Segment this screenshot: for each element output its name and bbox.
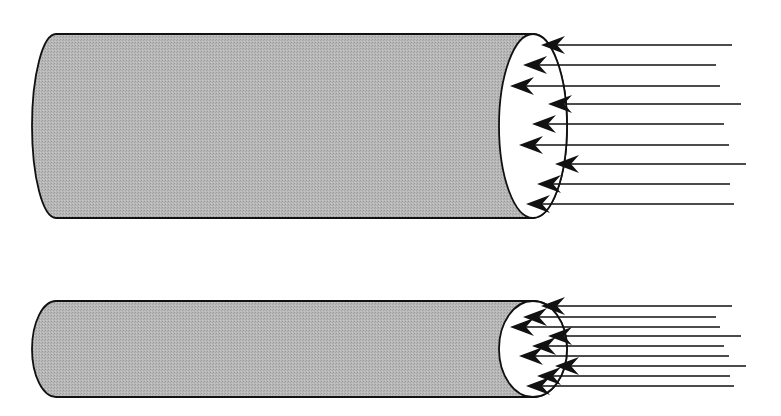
flux-arrow: [537, 175, 730, 193]
flux-arrow: [548, 327, 741, 345]
flux-arrow: [548, 95, 741, 113]
flux-arrow: [526, 195, 734, 213]
flux-arrow: [541, 297, 732, 315]
large-cylinder: [32, 34, 567, 218]
flux-cylinders-figure: [0, 0, 781, 416]
diagram-canvas: Two cylinders with parallel flux lines e…: [0, 0, 781, 416]
flux-arrow: [555, 357, 746, 375]
cylinder-body: [32, 34, 567, 218]
small-cylinder: [32, 301, 567, 397]
flux-arrow: [555, 155, 746, 173]
cylinder-body: [32, 301, 567, 397]
flux-arrow: [541, 36, 732, 54]
